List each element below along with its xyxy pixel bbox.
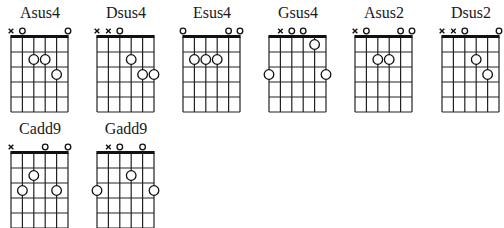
- muted-string-marker: [106, 29, 111, 34]
- finger-dot: [138, 70, 148, 80]
- finger-dot: [149, 70, 159, 80]
- open-string-marker: [65, 28, 71, 34]
- open-string-marker: [117, 144, 123, 150]
- nut: [10, 35, 68, 38]
- finger-dot: [29, 55, 39, 65]
- chord-asus4: Asus4: [0, 0, 80, 113]
- finger-dot: [126, 171, 136, 181]
- nut: [354, 35, 412, 38]
- finger-dot: [373, 55, 383, 65]
- finger-dot: [471, 55, 481, 65]
- fretboard-grid: [86, 0, 166, 115]
- open-string-marker: [289, 28, 295, 34]
- finger-dot: [40, 55, 50, 65]
- finger-dot: [264, 70, 274, 80]
- finger-dot: [321, 70, 331, 80]
- open-string-marker: [20, 28, 26, 34]
- nut: [10, 151, 68, 154]
- fretboard-grid: [0, 0, 80, 115]
- nut: [268, 35, 326, 38]
- finger-dot: [29, 171, 39, 181]
- finger-dot: [92, 186, 102, 196]
- fretboard-grid: [258, 0, 338, 115]
- finger-dot: [201, 55, 211, 65]
- nut: [441, 35, 499, 38]
- open-string-marker: [140, 144, 146, 150]
- open-string-marker: [496, 28, 502, 34]
- muted-string-marker: [451, 29, 456, 34]
- chord-asus2: Asus2: [344, 0, 424, 113]
- chord-dsus2: Dsus2: [431, 0, 504, 113]
- finger-dot: [18, 186, 28, 196]
- fretboard-grid: [431, 0, 504, 115]
- muted-string-marker: [440, 29, 445, 34]
- muted-string-marker: [9, 29, 14, 34]
- fretboard-grid: [344, 0, 424, 115]
- finger-dot: [126, 55, 136, 65]
- open-string-marker: [462, 28, 468, 34]
- chord-esus4: Esus4: [172, 0, 252, 113]
- open-string-marker: [398, 28, 404, 34]
- nut: [182, 35, 240, 38]
- muted-string-marker: [278, 29, 283, 34]
- fretboard-grid: [172, 0, 252, 115]
- finger-dot: [483, 70, 493, 80]
- open-string-marker: [364, 28, 370, 34]
- muted-string-marker: [9, 145, 14, 150]
- open-string-marker: [237, 28, 243, 34]
- muted-string-marker: [95, 29, 100, 34]
- open-string-marker: [42, 144, 48, 150]
- nut: [96, 35, 154, 38]
- finger-dot: [52, 186, 62, 196]
- nut: [96, 151, 154, 154]
- finger-dot: [52, 70, 62, 80]
- chord-gadd9: Gadd9: [86, 116, 166, 228]
- open-string-marker: [117, 28, 123, 34]
- open-string-marker: [180, 28, 186, 34]
- open-string-marker: [65, 144, 71, 150]
- finger-dot: [384, 55, 394, 65]
- finger-dot: [190, 55, 200, 65]
- chord-cadd9: Cadd9: [0, 116, 80, 228]
- finger-dot: [310, 40, 320, 50]
- finger-dot: [149, 186, 159, 196]
- open-string-marker: [226, 28, 232, 34]
- chord-gsus4: Gsus4: [258, 0, 338, 113]
- open-string-marker: [300, 28, 306, 34]
- fretboard-grid: [0, 116, 80, 228]
- open-string-marker: [409, 28, 415, 34]
- muted-string-marker: [106, 145, 111, 150]
- muted-string-marker: [353, 29, 358, 34]
- chord-dsus4: Dsus4: [86, 0, 166, 113]
- finger-dot: [212, 55, 222, 65]
- fretboard-grid: [86, 116, 166, 228]
